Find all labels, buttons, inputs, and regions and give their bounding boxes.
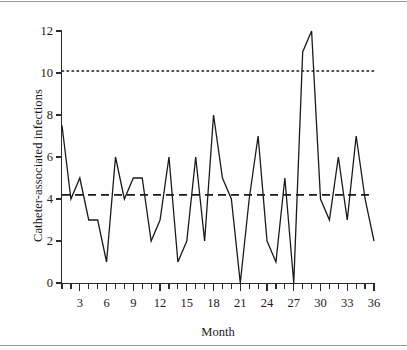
top-divider-rule: [0, 1, 407, 2]
bottom-divider-rule: [0, 345, 407, 346]
data-series-line: [62, 31, 374, 283]
figure-panel: Catheter-associated infections Month 024…: [0, 0, 407, 350]
plot-area: [0, 4, 407, 344]
run-chart: Catheter-associated infections Month 024…: [0, 4, 407, 344]
